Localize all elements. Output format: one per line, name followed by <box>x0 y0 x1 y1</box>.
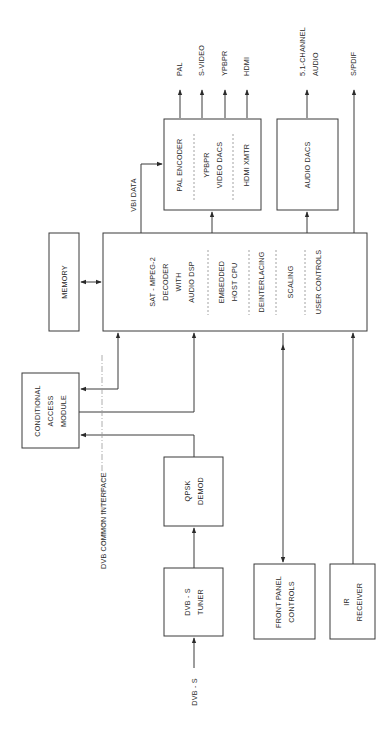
ir-label-line1: IR <box>342 598 351 606</box>
decoder-label-line4: AUDIO DSP <box>187 261 196 302</box>
output-51-audio-label-line2: AUDIO <box>311 52 320 76</box>
cam-label-line1: CONDITIONAL <box>33 385 42 436</box>
arrow-qpsk-to-cam <box>81 435 194 457</box>
cam-block: CONDITIONAL ACCESS MODULE <box>22 373 79 448</box>
common-interface-label: DVB COMMON INTERFACE <box>99 472 108 569</box>
ir-box <box>330 564 375 639</box>
arrow-cam-out-to-decoder <box>79 333 194 412</box>
output-pal-label: PAL <box>175 62 184 76</box>
video-output-block: PAL ENCODER YPBPR VIDEO DACS HDMI XMTR <box>164 119 261 210</box>
ir-block: IR RECEIVER <box>330 333 375 639</box>
front-panel-label-line1: FRONT PANEL <box>274 576 283 628</box>
deinterlacing-label: DEINTERLACING <box>257 251 266 312</box>
output-svideo-label: S-VIDEO <box>197 45 206 76</box>
vbi-data-label: VBI DATA <box>129 178 138 211</box>
arrow-vbi-data <box>141 164 162 233</box>
output-spdif-label: S/PDIF <box>349 51 358 76</box>
cam-label-line2: ACCESS <box>46 396 55 427</box>
output-hdmi-label: HDMI <box>242 57 251 76</box>
front-panel-box <box>254 564 315 639</box>
dvb-s-set-top-box-block-diagram: PAL S-VIDEO YPBPR HDMI 5.1-CHANNEL AUDIO… <box>0 0 384 734</box>
cam-connections: DVB COMMON INTERFACE <box>79 333 194 569</box>
memory-block: MEMORY <box>49 233 101 331</box>
tuner-block: DVB - S TUNER DVB - S <box>164 568 223 706</box>
qpsk-label-line2: DEMOD <box>196 477 205 505</box>
qpsk-block: QPSK DEMOD <box>164 457 223 568</box>
front-panel-block: FRONT PANEL CONTROLS <box>254 333 315 639</box>
output-ypbpr-label: YPBPR <box>220 51 229 76</box>
dvbs-input-label: DVB - S <box>190 678 199 705</box>
pal-encoder-label: PAL ENCODER <box>175 139 184 192</box>
cam-label-line3: MODULE <box>59 395 68 427</box>
video-dacs-label-line2: VIDEO DACS <box>215 142 224 188</box>
tuner-label-line2: TUNER <box>196 589 205 615</box>
qpsk-label-line1: QPSK <box>183 481 192 502</box>
ir-label-line2: RECEIVER <box>355 583 364 621</box>
decoder-label-line1: SAT - MPEG-2 <box>148 257 157 307</box>
output-51-audio-label-line1: 5.1-CHANNEL <box>298 27 307 76</box>
audio-dacs-block: AUDIO DACS <box>277 119 338 210</box>
scaling-label: SCALING <box>286 265 295 298</box>
audio-dacs-label: AUDIO DACS <box>303 142 312 189</box>
output-labels: PAL S-VIDEO YPBPR HDMI 5.1-CHANNEL AUDIO… <box>175 27 358 76</box>
decoder-label-line3: WITH <box>174 272 183 291</box>
qpsk-box <box>164 457 223 526</box>
memory-label: MEMORY <box>60 265 69 298</box>
tuner-box <box>164 568 223 636</box>
decoder-label-line2: DECODER <box>161 263 170 300</box>
front-panel-label-line2: CONTROLS <box>287 581 296 623</box>
decoder-block: SAT - MPEG-2 DECODER WITH AUDIO DSP EMBE… <box>103 233 367 331</box>
tuner-label-line1: DVB - S <box>183 588 192 615</box>
host-cpu-label-line2: HOST CPU <box>230 263 239 302</box>
hdmi-xmtr-label: HDMI XMTR <box>242 144 251 187</box>
user-controls-label: USER CONTROLS <box>314 250 323 315</box>
host-cpu-label-line1: EMBEDDED <box>217 261 226 303</box>
video-dacs-label-line1: YPBPR <box>202 152 211 177</box>
